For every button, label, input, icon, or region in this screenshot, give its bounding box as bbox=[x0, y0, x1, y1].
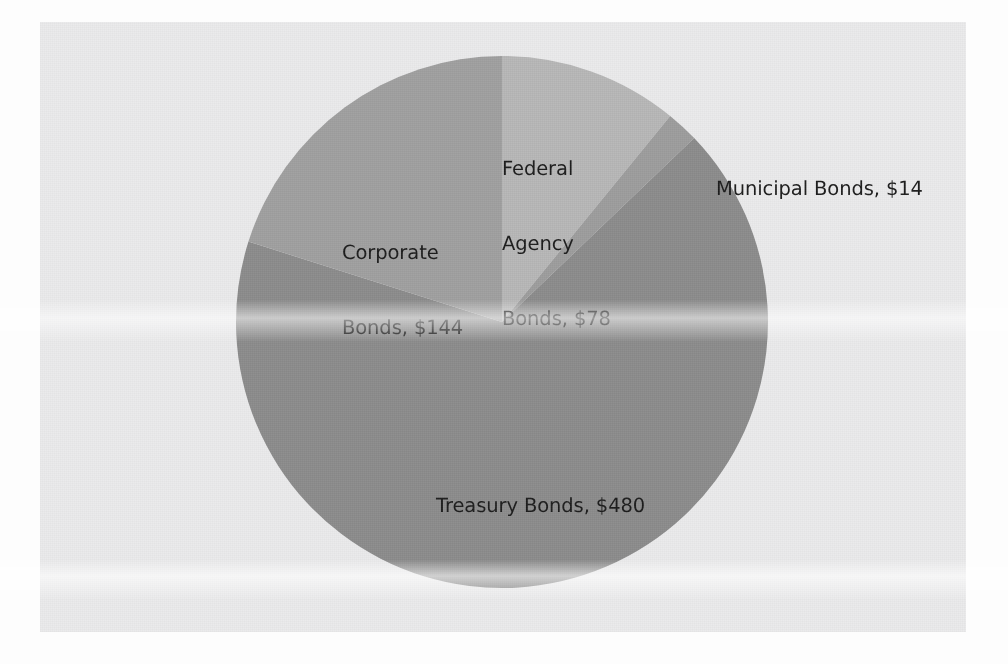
slice-label-federal-agency-bonds: Federal Agency Bonds, $78 bbox=[502, 106, 611, 381]
slice-label-line: Federal bbox=[502, 156, 611, 181]
slice-label-corporate-bonds: Corporate Bonds, $144 bbox=[342, 190, 463, 390]
slice-label-treasury-bonds: Treasury Bonds, $480 bbox=[436, 443, 645, 568]
chart-panel: Federal Agency Bonds, $78 Municipal Bond… bbox=[40, 22, 966, 632]
slice-label-line: Bonds, $144 bbox=[342, 315, 463, 340]
slice-label-line: Corporate bbox=[342, 240, 463, 265]
page-background: Federal Agency Bonds, $78 Municipal Bond… bbox=[0, 0, 1008, 664]
slice-label-municipal-bonds: Municipal Bonds, $14 bbox=[716, 126, 923, 251]
slice-label-line: Municipal Bonds, $14 bbox=[716, 176, 923, 201]
slice-label-line: Agency bbox=[502, 231, 611, 256]
slice-label-line: Treasury Bonds, $480 bbox=[436, 493, 645, 518]
slice-label-line: Bonds, $78 bbox=[502, 306, 611, 331]
